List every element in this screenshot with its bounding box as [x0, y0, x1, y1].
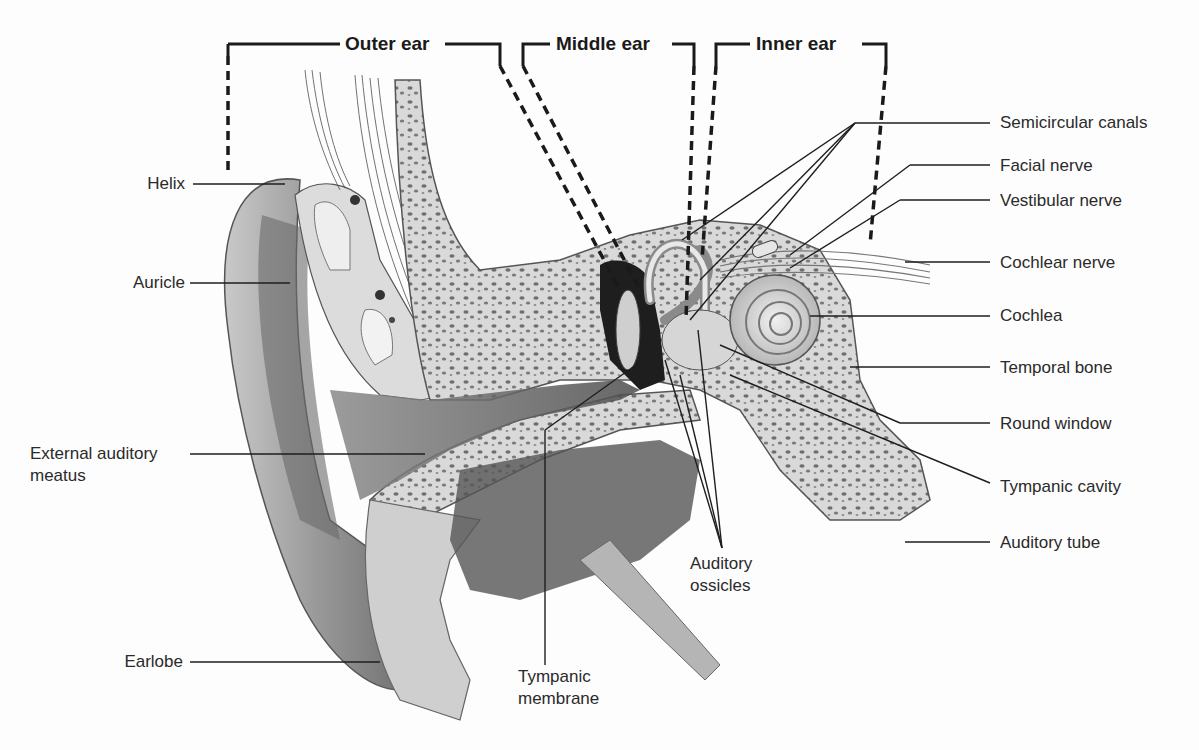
label-semicircular-canals: Semicircular canals — [1000, 112, 1147, 134]
label-auditory-tube: Auditory tube — [1000, 532, 1100, 554]
label-tympanic-cavity: Tympanic cavity — [1000, 476, 1121, 498]
label-earlobe: Earlobe — [124, 651, 183, 673]
section-header-outer-ear: Outer ear — [341, 33, 433, 55]
label-helix: Helix — [147, 173, 185, 195]
label-external-auditory-meatus: External auditory meatus — [30, 443, 158, 487]
label-temporal-bone: Temporal bone — [1000, 357, 1112, 379]
label-facial-nerve: Facial nerve — [1000, 155, 1093, 177]
label-tympanic-membrane-line2: membrane — [518, 688, 599, 710]
label-auditory-ossicles: Auditory ossicles — [690, 553, 752, 597]
label-vestibular-nerve: Vestibular nerve — [1000, 190, 1122, 212]
ear-anatomy-diagram: Outer ear Middle ear Inner ear Helix Aur… — [0, 0, 1199, 750]
label-auricle: Auricle — [133, 272, 185, 294]
label-auditory-ossicles-line2: ossicles — [690, 575, 752, 597]
label-cochlea: Cochlea — [1000, 305, 1062, 327]
section-header-inner-ear: Inner ear — [752, 33, 840, 55]
label-auditory-ossicles-line1: Auditory — [690, 553, 752, 575]
label-tympanic-membrane: Tympanic membrane — [518, 666, 599, 710]
label-external-auditory-meatus-line1: External auditory — [30, 443, 158, 465]
label-external-auditory-meatus-line2: meatus — [30, 465, 158, 487]
label-tympanic-membrane-line1: Tympanic — [518, 666, 599, 688]
section-header-middle-ear: Middle ear — [552, 33, 654, 55]
label-round-window: Round window — [1000, 413, 1112, 435]
label-cochlear-nerve: Cochlear nerve — [1000, 252, 1115, 274]
